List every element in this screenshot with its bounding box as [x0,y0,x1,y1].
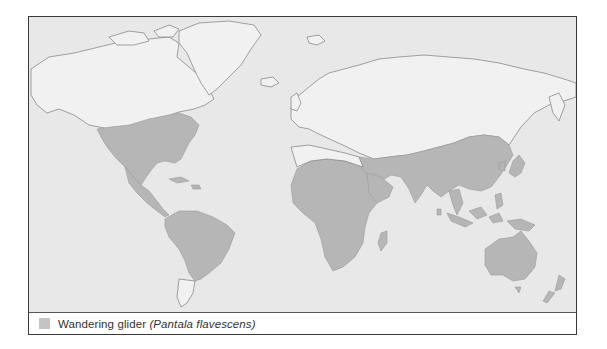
legend-label: Wandering glider (Pantala flavescens) [58,318,256,330]
map-frame: Wandering glider (Pantala flavescens) [28,16,577,335]
world-map [29,17,576,312]
legend-scientific-name: (Pantala flavescens) [149,318,255,330]
world-map-graphic [29,17,576,312]
legend-common-name: Wandering glider [58,318,146,330]
legend-swatch [39,318,50,329]
map-legend: Wandering glider (Pantala flavescens) [29,312,576,334]
